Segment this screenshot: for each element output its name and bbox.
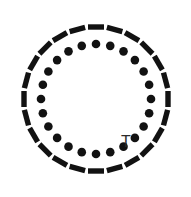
dial-dot-21	[53, 56, 62, 65]
dial-dot-6	[147, 95, 156, 104]
dial-tick-18	[21, 91, 26, 107]
dial-dot-20	[44, 67, 53, 76]
dial-dot-13	[77, 148, 86, 157]
dial-dot-16	[44, 122, 53, 131]
dial-dot-12	[92, 150, 101, 159]
dial-dot-15	[53, 134, 62, 143]
dial-dot-2	[119, 47, 128, 56]
dial-dot-14	[64, 142, 73, 151]
dial-dot-4	[139, 67, 148, 76]
figure-canvas: T	[0, 0, 191, 197]
dial-dot-8	[139, 122, 148, 131]
dial-dot-17	[39, 109, 48, 118]
dial-tick-12	[88, 168, 104, 173]
dial-tick-6	[165, 91, 170, 107]
dial-dot-22	[64, 47, 73, 56]
dial-dot-1	[106, 42, 115, 51]
dial-dot-11	[106, 148, 115, 157]
dial-dot-0	[92, 40, 101, 49]
center-letter-label: T	[121, 133, 131, 150]
dial-dot-19	[39, 80, 48, 89]
dial-dot-18	[37, 95, 46, 104]
dial-dot-5	[145, 80, 154, 89]
dial-figure: T	[0, 0, 191, 197]
dial-dot-7	[145, 109, 154, 118]
dial-dot-9	[131, 134, 140, 143]
dial-dot-3	[131, 56, 140, 65]
dial-dot-23	[77, 42, 86, 51]
dial-tick-0	[88, 24, 104, 29]
